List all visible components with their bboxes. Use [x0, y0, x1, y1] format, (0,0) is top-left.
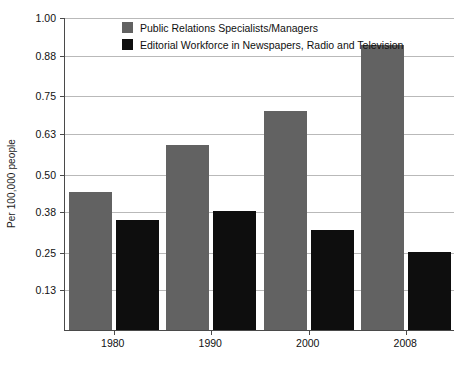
plot-area — [64, 18, 454, 331]
bar — [361, 45, 404, 330]
y-axis-tick-label: 0.38 — [36, 206, 56, 218]
y-axis-tick-label: 0.50 — [36, 169, 56, 181]
x-axis-tick-label: 1990 — [199, 337, 222, 349]
bars-layer — [65, 18, 454, 330]
legend-item: Public Relations Specialists/Managers — [122, 20, 403, 35]
legend-label: Public Relations Specialists/Managers — [140, 22, 318, 34]
y-axis-tick-label: 0.75 — [36, 90, 56, 102]
legend-swatch-icon — [122, 39, 133, 50]
x-axis-tick-marks — [65, 330, 454, 335]
x-axis-tick-label: 1980 — [101, 337, 124, 349]
bar — [264, 111, 307, 330]
y-axis-tick-labels: 1.000.880.750.630.500.380.250.13 — [24, 0, 60, 367]
y-axis-tick-label: 0.25 — [36, 247, 56, 259]
y-axis-tick-label: 0.88 — [36, 50, 56, 62]
bar — [311, 230, 354, 330]
legend-item: Editorial Workforce in Newspapers, Radio… — [122, 37, 403, 52]
x-axis-tick-mark — [309, 330, 310, 335]
bar — [166, 145, 209, 330]
x-axis-tick-label: 2000 — [296, 337, 319, 349]
bar — [69, 192, 112, 330]
x-axis-tick-mark — [406, 330, 407, 335]
y-axis-tick-label: 0.63 — [36, 128, 56, 140]
y-axis-tick-label: 0.13 — [36, 284, 56, 296]
bar — [408, 252, 451, 330]
bar-chart: Per 100,000 people 1.000.880.750.630.500… — [0, 0, 474, 367]
bar — [213, 211, 256, 330]
x-axis-tick-mark — [114, 330, 115, 335]
y-axis-title: Per 100,000 people — [0, 0, 22, 367]
y-axis-tick-label: 1.00 — [36, 12, 56, 24]
x-axis-tick-label: 2008 — [394, 337, 417, 349]
x-axis-tick-mark — [211, 330, 212, 335]
bar — [116, 220, 159, 330]
legend-swatch-icon — [122, 22, 133, 33]
legend-label: Editorial Workforce in Newspapers, Radio… — [140, 39, 403, 51]
x-axis-tick-labels: 1980199020002008 — [64, 337, 454, 357]
legend: Public Relations Specialists/ManagersEdi… — [122, 20, 403, 52]
